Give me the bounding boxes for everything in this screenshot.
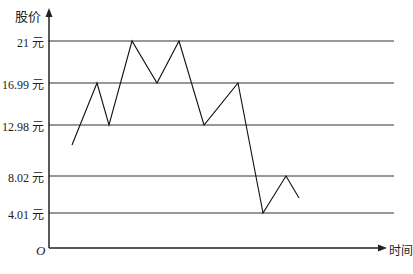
y-axis-arrow-icon [46,8,53,17]
y-axis-label: 股价 [15,6,41,25]
y-tick-16-99: 16.99 元 [0,75,44,93]
x-axis-arrow-icon [378,245,387,252]
gridlines [49,41,394,213]
price-line [72,41,299,213]
origin-label: O [36,243,45,259]
y-tick-21: 21 元 [0,33,44,51]
y-tick-8-02: 8.02 元 [0,168,44,186]
x-axis-label: 时间 [389,241,413,259]
y-tick-12-98: 12.98 元 [0,117,44,135]
y-tick-4-01: 4.01 元 [0,205,44,223]
